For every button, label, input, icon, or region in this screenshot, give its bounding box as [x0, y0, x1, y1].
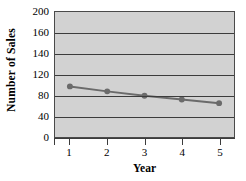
- x-axis-tick: [107, 139, 108, 145]
- gridline: [55, 75, 234, 76]
- x-axis-tick-label: 4: [179, 146, 185, 158]
- y-axis-tick-label: 160: [33, 26, 50, 38]
- y-axis-tick-labels: 20016014012080400: [22, 0, 52, 145]
- x-axis-tick-label: 3: [142, 146, 148, 158]
- gridline: [55, 96, 234, 97]
- y-axis-title-text: Number of Sales: [5, 28, 17, 112]
- x-axis-tick-label: 5: [217, 146, 223, 158]
- x-axis-tick-label: 2: [104, 146, 110, 158]
- x-axis-tick: [220, 139, 221, 145]
- data-point-marker: [216, 100, 222, 106]
- x-axis-tick: [145, 139, 146, 145]
- x-axis-title: Year: [54, 162, 235, 174]
- x-axis-origin-tick: [54, 139, 55, 145]
- gridline: [55, 54, 234, 55]
- gridline: [55, 33, 234, 34]
- data-point-marker: [179, 96, 185, 102]
- data-point-marker: [67, 83, 73, 89]
- x-axis-tick: [69, 139, 70, 145]
- y-axis-title: Number of Sales: [0, 0, 22, 140]
- y-axis-tick-label: 120: [33, 68, 50, 80]
- gridline: [55, 117, 234, 118]
- plot-area: [54, 11, 235, 138]
- y-axis-tick-label: 0: [44, 131, 50, 143]
- y-axis-tick-label: 200: [33, 5, 50, 17]
- y-axis-tick-label: 40: [38, 110, 49, 122]
- x-axis-tick: [182, 139, 183, 145]
- y-axis-tick-label: 80: [38, 89, 49, 101]
- data-point-marker: [104, 88, 110, 94]
- y-axis-tick-label: 140: [33, 47, 50, 59]
- line-chart: Number of Sales 20016014012080400 12345 …: [0, 0, 246, 181]
- x-axis-tick-label: 1: [66, 146, 72, 158]
